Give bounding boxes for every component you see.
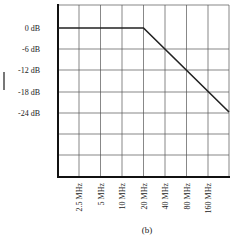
x-tick-labels: 2.5 MHz 5 MHz 10 MHz 20 MHz 40 MHz 80 MH… xyxy=(75,183,213,214)
figure-caption: (b) xyxy=(142,225,153,235)
x-tick-1: 5 MHz xyxy=(97,183,106,206)
x-tick-0: 2.5 MHz xyxy=(75,183,84,212)
x-tick-6: 160 MHz xyxy=(204,183,213,214)
y-tick-0: 0 dB xyxy=(25,24,40,33)
y-tick-3: -18 dB xyxy=(18,88,40,97)
y-tick-1: -6 dB xyxy=(22,45,40,54)
x-tick-4: 40 MHz xyxy=(161,183,170,210)
y-tick-4: -24 dB xyxy=(18,109,40,118)
y-tick-labels: 0 dB -6 dB -12 dB -18 dB -24 dB xyxy=(18,24,40,118)
grid xyxy=(57,5,229,176)
frequency-response-chart: 0 dB -6 dB -12 dB -18 dB -24 dB 2.5 MHz … xyxy=(0,0,242,237)
x-tick-3: 20 MHz xyxy=(140,183,149,210)
y-tick-2: -12 dB xyxy=(18,66,40,75)
x-tick-5: 80 MHz xyxy=(183,183,192,210)
x-tick-2: 10 MHz xyxy=(118,183,127,210)
